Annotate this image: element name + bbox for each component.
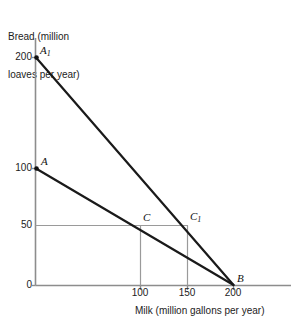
point-marker-a — [34, 166, 39, 171]
x-tick-label-200: 200 — [218, 287, 248, 298]
point-label-c1: C1 — [190, 210, 201, 222]
x-tick-label-100: 100 — [125, 287, 155, 298]
ppf-chart: Bread (million loaves per year) 200 100 … — [0, 0, 303, 324]
point-label-a: A — [41, 155, 48, 167]
x-axis-title: Milk (million gallons per year) — [135, 305, 264, 318]
y-tick-label-0: 0 — [6, 279, 32, 290]
point-label-a1-base: A — [40, 44, 47, 56]
point-marker-a1 — [34, 55, 39, 60]
point-label-b: B — [237, 272, 244, 284]
ppf-line-inner — [36, 169, 234, 286]
point-label-a1-subscript: 1 — [47, 49, 51, 58]
point-label-c: C — [143, 211, 150, 223]
y-tick-label-50: 50 — [6, 219, 32, 230]
point-label-a1: A1 — [40, 44, 51, 56]
x-tick-label-150: 150 — [172, 287, 202, 298]
y-tick-label-200: 200 — [6, 51, 32, 62]
point-label-c1-subscript: 1 — [197, 215, 201, 224]
ppf-line-outer — [36, 58, 234, 286]
y-tick-label-100: 100 — [6, 162, 32, 173]
